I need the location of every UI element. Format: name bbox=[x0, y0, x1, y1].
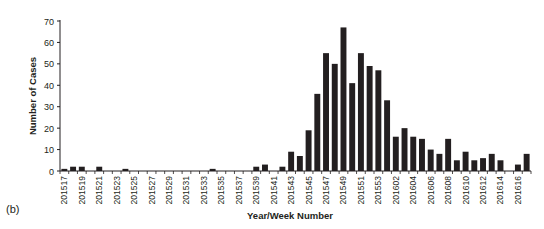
bar-201542 bbox=[279, 167, 285, 171]
bar-201548 bbox=[332, 64, 338, 171]
x-tick-label: 201602 bbox=[391, 176, 401, 205]
x-tick-label: 201537 bbox=[234, 176, 244, 205]
x-tick-label: 201545 bbox=[304, 176, 314, 205]
x-tick-label: 201541 bbox=[269, 176, 279, 205]
bar-201553 bbox=[375, 70, 381, 171]
x-tick-label: 201551 bbox=[356, 176, 366, 205]
x-tick-label: 201616 bbox=[513, 176, 523, 205]
bar-201601 bbox=[384, 100, 390, 171]
bar-201551 bbox=[358, 53, 364, 171]
y-tick-label: 0 bbox=[49, 167, 54, 177]
x-tick-label: 201549 bbox=[338, 176, 348, 205]
bar-201546 bbox=[314, 94, 320, 171]
x-tick-label: 201543 bbox=[286, 176, 296, 205]
bar-201544 bbox=[297, 156, 303, 171]
x-tick-label: 201517 bbox=[59, 176, 69, 205]
bar-201549 bbox=[341, 27, 347, 171]
x-tick-label: 201610 bbox=[461, 176, 471, 205]
x-tick-label: 201614 bbox=[495, 176, 505, 205]
x-tick-label: 201547 bbox=[321, 176, 331, 205]
x-tick-label: 201553 bbox=[373, 176, 383, 205]
bar-201607 bbox=[436, 154, 442, 171]
bar-201550 bbox=[349, 83, 355, 171]
bar-201617 bbox=[524, 154, 530, 171]
y-tick-label: 60 bbox=[44, 38, 54, 48]
bar-201552 bbox=[367, 66, 373, 171]
x-tick-label: 201606 bbox=[426, 176, 436, 205]
bar-201606 bbox=[428, 150, 434, 171]
bar-201613 bbox=[489, 154, 495, 171]
x-tick-label: 201535 bbox=[216, 176, 226, 205]
y-tick-label: 70 bbox=[44, 17, 54, 27]
bar-201539 bbox=[253, 167, 259, 171]
bar-201614 bbox=[498, 160, 504, 171]
x-tick-label: 201608 bbox=[443, 176, 453, 205]
x-tick-label: 201533 bbox=[199, 176, 209, 205]
bar-201545 bbox=[306, 130, 312, 171]
bar-201543 bbox=[288, 152, 294, 171]
y-tick-label: 20 bbox=[44, 124, 54, 134]
x-tick-label: 201525 bbox=[129, 176, 139, 205]
y-tick-label: 40 bbox=[44, 81, 54, 91]
x-tick-label: 201604 bbox=[408, 176, 418, 205]
bar-201611 bbox=[471, 160, 477, 171]
bar-201518 bbox=[70, 167, 76, 171]
x-tick-label: 201531 bbox=[181, 176, 191, 205]
bar-201609 bbox=[454, 160, 460, 171]
bar-201602 bbox=[393, 137, 399, 171]
y-tick-label: 10 bbox=[44, 145, 54, 155]
bar-201547 bbox=[323, 53, 329, 171]
x-tick-label: 201521 bbox=[94, 176, 104, 205]
bar-201521 bbox=[96, 167, 102, 171]
bar-201604 bbox=[410, 137, 416, 171]
y-tick-label: 30 bbox=[44, 102, 54, 112]
bar-201612 bbox=[480, 158, 486, 171]
x-tick-label: 201527 bbox=[147, 176, 157, 205]
x-tick-label: 201539 bbox=[251, 176, 261, 205]
x-tick-label: 201523 bbox=[112, 176, 122, 205]
x-tick-label: 201519 bbox=[77, 176, 87, 205]
x-tick-label: 201529 bbox=[164, 176, 174, 205]
y-tick-label: 50 bbox=[44, 59, 54, 69]
bar-201519 bbox=[79, 167, 85, 171]
bar-201540 bbox=[262, 165, 268, 171]
y-axis-title: Number of Cases bbox=[27, 57, 38, 135]
x-tick-label: 201612 bbox=[478, 176, 488, 205]
panel-label: (b) bbox=[6, 203, 19, 215]
bar-201605 bbox=[419, 139, 425, 171]
bar-201616 bbox=[515, 165, 521, 171]
bar-201603 bbox=[402, 128, 408, 171]
x-axis-title: Year/Week Number bbox=[247, 210, 333, 221]
bar-201608 bbox=[445, 139, 451, 171]
bar-chart: 0102030405060702015172015192015212015232… bbox=[0, 0, 544, 229]
bar-201610 bbox=[463, 152, 469, 171]
